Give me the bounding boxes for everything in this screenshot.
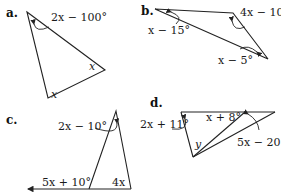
angle-arc-b-top <box>232 21 245 29</box>
figure-c-label: c. <box>6 113 17 127</box>
figure-b: b. x − 15° 4x − 10° x − 5° <box>141 4 281 67</box>
angle-label-c-exterior: 5x + 10° <box>42 176 91 189</box>
triangle-a <box>27 12 105 98</box>
figure-a-label: a. <box>6 6 18 20</box>
angle-label-a-bottom: x <box>51 88 58 101</box>
angle-label-a-top: 2x − 100° <box>51 11 107 24</box>
angle-label-b-bottom: x − 5° <box>218 54 253 67</box>
figure-d: d. 2x + 11° x + 8° 5x − 20° y <box>140 96 281 157</box>
figure-c: c. 2x − 10° 5x + 10° 4x <box>6 111 131 189</box>
angle-label-c-right: 4x <box>112 176 126 189</box>
angle-label-d-middle: x + 8° <box>206 111 241 124</box>
angle-arc-b-bottom <box>240 47 257 52</box>
figure-a: a. 2x − 100° x x <box>6 6 107 101</box>
angle-label-d-left: 2x + 11° <box>140 118 189 131</box>
angle-label-c-top: 2x − 10° <box>58 120 107 133</box>
angle-label-a-right: x <box>89 60 96 73</box>
triangle-diagram: a. 2x − 100° x x b. x − 15° 4x − 10° x −… <box>0 0 281 196</box>
figure-d-label: d. <box>150 96 163 110</box>
angle-label-d-y: y <box>194 138 202 151</box>
angle-label-b-top: 4x − 10° <box>240 6 281 19</box>
figure-b-label: b. <box>141 4 154 18</box>
angle-label-d-right: 5x − 20° <box>237 136 281 149</box>
angle-label-b-left: x − 15° <box>148 24 190 37</box>
